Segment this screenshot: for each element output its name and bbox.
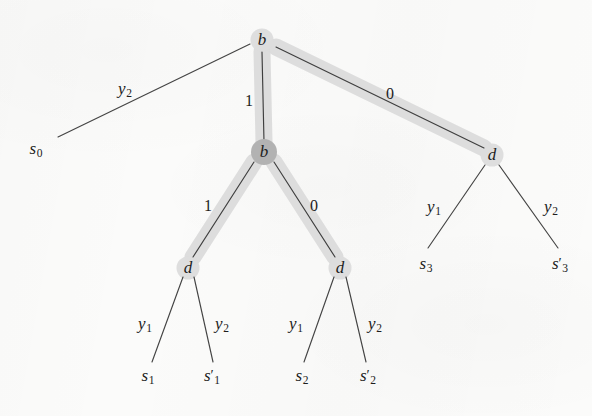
- edge-label-e-dleft-s1: y1: [138, 314, 152, 335]
- edge-line-e-dmid-s2[interactable]: [304, 277, 334, 362]
- edge-line-e-root-dright[interactable]: [276, 47, 484, 148]
- leaf-label-s3p[interactable]: s′3: [552, 254, 568, 275]
- edge-line-e-b2-dleft[interactable]: [193, 162, 254, 257]
- edge-line-e-dleft-s1[interactable]: [152, 277, 183, 362]
- node-label-b-root[interactable]: b: [258, 30, 267, 50]
- leaf-label-s1p[interactable]: s′1: [204, 366, 220, 387]
- node-halo-layer: [177, 29, 504, 280]
- tree-graph-canvas: [0, 0, 592, 416]
- node-label-d-mid[interactable]: d: [336, 258, 345, 278]
- edge-label-e-root-dright: 0: [386, 85, 394, 103]
- node-label-d-left[interactable]: d: [184, 258, 193, 278]
- leaf-label-s2p[interactable]: s′2: [360, 366, 376, 387]
- node-label-b-second[interactable]: b: [260, 142, 269, 162]
- edge-label-e-dleft-s1p: y2: [215, 314, 229, 335]
- highlight-path-layer: [193, 47, 484, 257]
- edge-label-e-dmid-s2: y1: [289, 314, 303, 335]
- edge-label-e-root-s0: y2: [118, 79, 132, 100]
- edge-label-e-root-b2: 1: [245, 92, 253, 110]
- leaf-label-s2[interactable]: s2: [296, 366, 309, 387]
- edge-label-e-dright-s3p: y2: [544, 197, 558, 218]
- leaf-label-s3[interactable]: s3: [420, 254, 433, 275]
- leaf-label-s1[interactable]: s1: [142, 366, 155, 387]
- edge-label-e-dmid-s2p: y2: [368, 314, 382, 335]
- leaf-label-s0[interactable]: s0: [30, 139, 43, 160]
- tree-diagram-figure: bbdddy21010y1y2y1y2y1y2s0s1s′1s2s′2s3s′3: [0, 0, 592, 416]
- edge-line-e-b2-dmid[interactable]: [274, 162, 335, 257]
- edge-label-e-b2-dmid: 0: [310, 197, 318, 215]
- edge-line-e-root-s0[interactable]: [58, 44, 250, 137]
- edge-line-e-dleft-s1p[interactable]: [194, 277, 213, 362]
- node-label-d-right[interactable]: d: [488, 145, 497, 165]
- edge-label-e-dright-s3: y1: [427, 197, 441, 218]
- edge-line-e-dmid-s2p[interactable]: [346, 277, 366, 362]
- edge-label-e-b2-dleft: 1: [204, 197, 212, 215]
